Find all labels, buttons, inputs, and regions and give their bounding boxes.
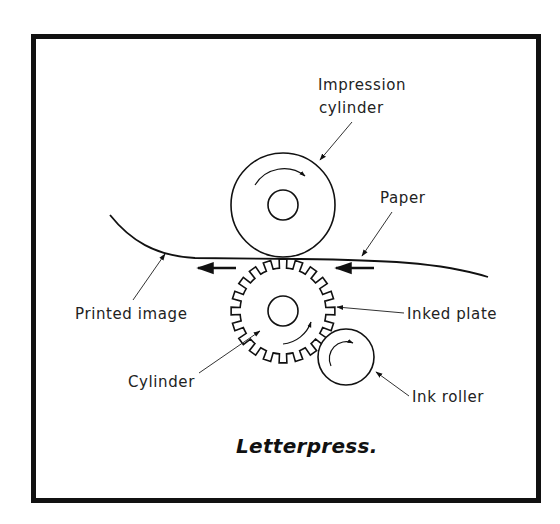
impression-cylinder (231, 153, 335, 257)
label-impression-cylinder-line1: Impression (318, 74, 406, 96)
leader-impression-cylinder (320, 122, 352, 160)
letterpress-diagram: Impression cylinder Paper Printed image … (0, 0, 560, 524)
label-ink-roller: Ink roller (412, 386, 484, 408)
ink-roller (318, 329, 374, 385)
diagram-title: Letterpress. (236, 434, 378, 458)
label-impression-cylinder-line2: cylinder (319, 97, 384, 119)
leader-ink-roller (376, 372, 409, 396)
label-printed-image: Printed image (75, 303, 188, 325)
label-cylinder: Cylinder (128, 371, 195, 393)
leader-inked-plate (337, 307, 404, 313)
leader-printed-image (133, 254, 165, 300)
leader-paper (362, 212, 392, 256)
label-inked-plate: Inked plate (407, 303, 497, 325)
label-paper: Paper (380, 187, 425, 209)
